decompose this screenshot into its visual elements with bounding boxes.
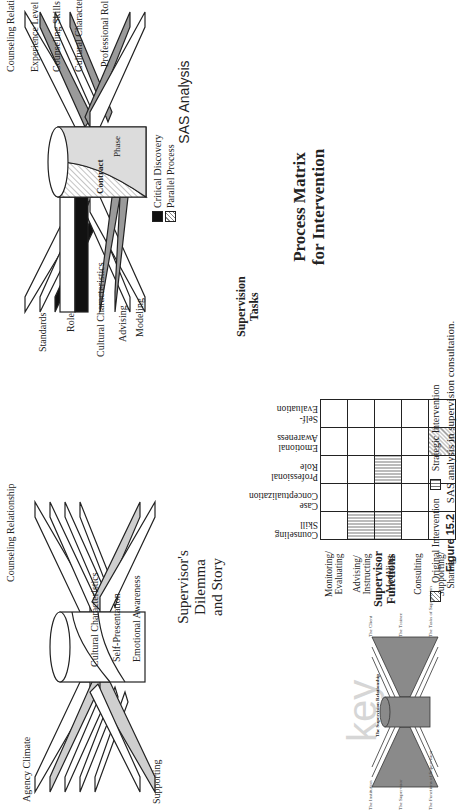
sas-legend-parallel-process: Parallel Process: [165, 134, 176, 222]
sas-label-modeling: Modeling: [135, 298, 145, 337]
dilemma-label-counseling-relationship: Counseling Relationship: [6, 483, 16, 582]
dilemma-label-agency-climate: Agency Climate: [22, 737, 32, 802]
sas-legend: Critical Discovery Parallel Process: [152, 134, 176, 222]
matrix-title-line2: for Intervention: [309, 132, 328, 282]
figure-number: Figure 15.2: [444, 514, 456, 572]
matrix-legend: Original Intervention Strategic Interven…: [430, 384, 441, 602]
critical-discovery-swatch-icon: [152, 211, 163, 222]
sas-label-cultural-characteristics-top: Cultural Characteristics: [74, 0, 84, 72]
sas-legend-critical-discovery: Critical Discovery: [152, 134, 163, 222]
matrix-row: [348, 400, 375, 540]
matrix-cell: [375, 428, 402, 456]
parallel-process-swatch-icon: [165, 211, 176, 222]
sas-label-cultural-characteristics-bottom: Cultural Characteristics: [96, 262, 106, 357]
sas-legend-label: Critical Discovery: [153, 134, 163, 208]
sas-label-counseling-skills: Counseling Skills: [52, 1, 62, 72]
matrix-cell: [348, 400, 375, 428]
matrix-cols-header: Supervision Tasks: [235, 276, 261, 337]
row-label: Modeling: [376, 544, 404, 604]
matrix-cell: [375, 400, 402, 428]
sas-label-role: Role: [66, 313, 76, 332]
matrix-cell: [321, 512, 348, 540]
matrix-row: [375, 400, 402, 540]
key-label-tasks: The Tasks of Supervision: [428, 586, 433, 637]
key-label-institution: The Institution: [368, 780, 373, 810]
matrix-cell: [402, 512, 429, 540]
matrix-cell: [375, 484, 402, 512]
matrix-cell: [402, 400, 429, 428]
matrix-cell: [321, 456, 348, 484]
matrix-cell: [402, 484, 429, 512]
dilemma-title: Supervisor's Dilemma and Story: [175, 522, 226, 652]
sas-label-counseling-relationship: Counseling Relationship: [6, 0, 16, 72]
row-label: Advising/ Instructing: [348, 544, 376, 604]
key-label-supervisor: The Supervisor: [398, 779, 403, 810]
key-label-trainee: The Trainee: [398, 613, 403, 637]
matrix-cell: [402, 456, 429, 484]
column-label: Case Conceptualization: [270, 482, 318, 511]
sas-label-professional-role: Professional Role: [100, 0, 110, 67]
matrix-cell: [348, 456, 375, 484]
matrix-row: [402, 400, 429, 540]
matrix-cell: [321, 428, 348, 456]
dilemma-label-supporting: Supporting: [152, 760, 162, 804]
key-label-client: The Client: [368, 616, 373, 637]
column-label: Self-Evaluation: [270, 395, 318, 424]
dilemma-title-line1: Supervisor's Dilemma: [175, 522, 209, 652]
matrix-legend-label: Original Intervention: [431, 498, 441, 583]
sas-label-advising: Advising: [118, 305, 128, 342]
sas-center-contract: Contract: [95, 160, 105, 195]
figure-page: Counseling Relationship Cultural Charact…: [0, 0, 461, 812]
strategic-intervention-swatch-icon: [430, 479, 441, 490]
figure-caption-text: SAS analysis in supervision consultation…: [444, 321, 456, 503]
figure-caption: Figure 15.2 SAS analysis in supervision …: [444, 321, 456, 572]
matrix-cell: [321, 400, 348, 428]
matrix-row: [321, 400, 348, 540]
row-label: Monitoring/ Evaluating: [320, 544, 348, 604]
matrix-title-line1: Process Matrix: [290, 132, 309, 282]
matrix-cell-strategic: [348, 512, 375, 540]
sas-label-experience-level: Experience Level: [30, 2, 40, 72]
sas-center-phase: Phase: [112, 136, 122, 157]
matrix-cell-strategic: [375, 456, 402, 484]
matrix-cell: [321, 484, 348, 512]
sas-title: SAS Analysis: [176, 52, 193, 152]
dilemma-label-cultural-characteristics: Cultural Characteristics: [90, 572, 100, 667]
key-label-functions: The Functions of Supervision: [428, 751, 433, 810]
cols-header-line2: Tasks: [248, 276, 261, 337]
sas-bowtie-graphic: [20, 12, 155, 312]
sas-legend-label: Parallel Process: [166, 144, 176, 208]
matrix-cell: [348, 484, 375, 512]
dilemma-label-emotional-awareness: Emotional Awareness: [132, 575, 142, 662]
matrix-title: Process Matrix for Intervention: [290, 132, 328, 282]
column-label: Counseling Skill: [270, 511, 318, 540]
dilemma-title-line2: and Story: [209, 522, 226, 652]
matrix-column-labels: Counseling Skill Case Conceptualization …: [270, 395, 318, 540]
column-label: Emotional Awareness: [270, 424, 318, 453]
matrix-cell-strategic: [375, 512, 402, 540]
dilemma-label-self-presentation: Self-Presentation: [112, 593, 122, 662]
matrix-legend-label: Strategic Intervention: [431, 384, 441, 471]
sas-label-standards: Standards: [38, 313, 48, 352]
matrix-cell: [348, 428, 375, 456]
column-label: Professional Role: [270, 453, 318, 482]
matrix-cell: [402, 428, 429, 456]
key-center-label: The Supervision Relationship: [375, 674, 380, 737]
